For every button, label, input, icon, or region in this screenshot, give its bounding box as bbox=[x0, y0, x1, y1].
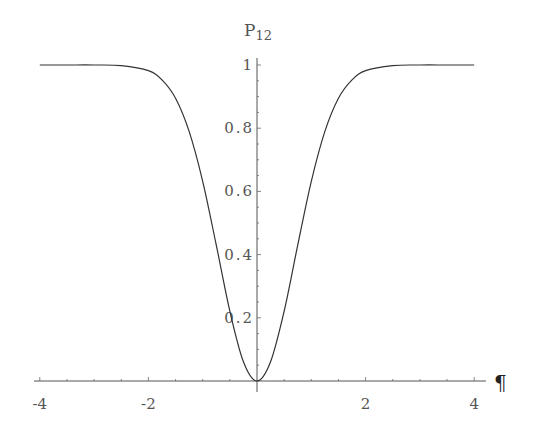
x-tick-label: 2 bbox=[361, 395, 371, 413]
y-tick-label: 0.2 bbox=[224, 309, 254, 327]
y-axis-title-main: P bbox=[244, 20, 255, 40]
y-axis-title: P12 bbox=[244, 20, 272, 43]
x-axis-ticks: -4-224 bbox=[32, 395, 478, 413]
y-tick-label: 0.8 bbox=[224, 119, 254, 137]
x-tick-label: -2 bbox=[141, 395, 156, 413]
y-axis-ticks: 0.20.40.60.81 bbox=[224, 56, 254, 327]
plot-area: -4-224 0.20.40.60.81 P12 ¶ bbox=[0, 0, 541, 429]
y-tick-label: 0.4 bbox=[224, 246, 254, 264]
y-tick-label: 0.6 bbox=[224, 182, 254, 200]
y-tick-label: 1 bbox=[242, 56, 254, 74]
y-axis-minor-ticks bbox=[257, 65, 261, 365]
y-axis-title-sub: 12 bbox=[255, 28, 272, 43]
x-tick-label: 4 bbox=[469, 395, 479, 413]
x-tick-label: -4 bbox=[32, 395, 47, 413]
x-axis-title: ¶ bbox=[494, 371, 507, 395]
